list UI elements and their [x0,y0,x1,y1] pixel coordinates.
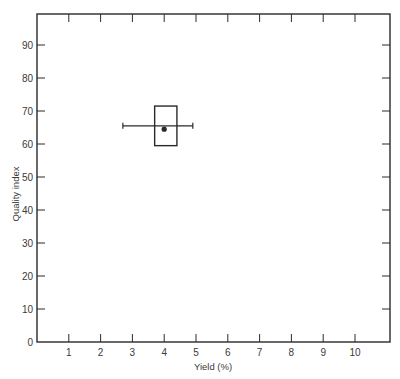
y-axis-right-ticks [382,45,390,309]
y-axis-ticks: 0102030405060708090 [22,40,45,348]
y-tick-label: 80 [22,73,34,84]
x-tick-label: 10 [349,347,361,358]
y-axis-title: Quality index [10,166,21,221]
x-tick-label: 3 [130,347,136,358]
y-tick-label: 10 [22,304,34,315]
x-tick-label: 2 [98,347,104,358]
x-axis-title: Yield (%) [194,361,232,372]
x-tick-label: 1 [66,347,72,358]
y-tick-label: 60 [22,139,34,150]
x-tick-label: 6 [225,347,231,358]
x-axis-top-ticks [69,14,355,22]
y-tick-label: 40 [22,205,34,216]
y-tick-label: 0 [27,337,33,348]
x-tick-label: 8 [289,347,295,358]
y-tick-label: 30 [22,238,34,249]
data-point [162,127,167,132]
plot-frame [37,14,390,342]
x-tick-label: 9 [320,347,326,358]
y-tick-label: 20 [22,271,34,282]
y-tick-label: 50 [22,172,34,183]
y-tick-label: 90 [22,40,34,51]
y-tick-label: 70 [22,106,34,117]
x-tick-label: 4 [161,347,167,358]
x-axis-ticks: 12345678910 [66,334,361,358]
x-tick-label: 7 [257,347,263,358]
x-tick-label: 5 [193,347,199,358]
chart: 12345678910 0102030405060708090 Yield (%… [0,0,400,379]
plot-marks [123,106,193,146]
